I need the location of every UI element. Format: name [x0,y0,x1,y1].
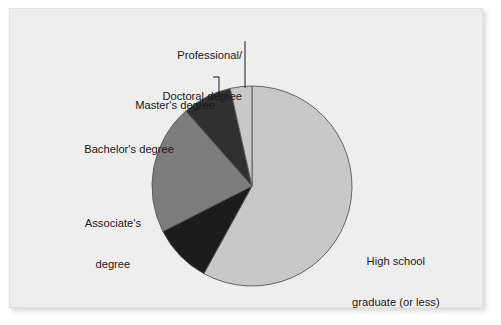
slice-label-high-school-line2: graduate (or less) [352,296,440,310]
slice-label-high-school-line1: High school [352,255,440,269]
chart-figure: Professional/ Doctoral degree Master's d… [0,0,501,325]
slice-label-professional-line1: Professional/ [162,49,242,63]
slice-label-bachelors: Bachelor's degree [84,116,174,184]
slice-label-associates-line2: degree [85,258,141,272]
slice-label-masters-text: Master's degree [135,99,215,113]
slice-label-bachelors-text: Bachelor's degree [84,143,174,157]
slice-label-high-school: High school graduate (or less) [352,228,440,325]
slice-label-associates-line1: Associate's [85,217,141,231]
slice-label-associates: Associate's degree [85,190,141,298]
